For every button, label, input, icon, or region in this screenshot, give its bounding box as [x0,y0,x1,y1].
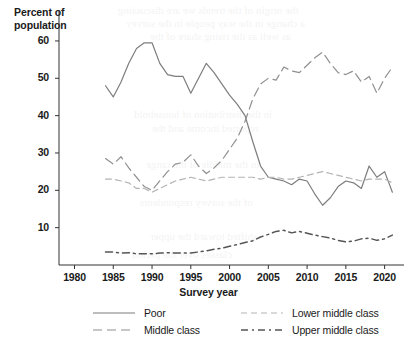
y-tick-60: 60 [23,34,49,46]
legend-swatch-poor [92,308,136,318]
legend-label-poor: Poor [144,307,166,319]
x-tick-1980: 1980 [53,271,97,283]
x-tick-2010: 2010 [285,271,329,283]
y-tick-20: 20 [23,183,49,195]
series-line-upper-middle-class [106,230,393,254]
legend-item-lower-middle-class: Lower middle class [240,307,379,319]
x-tick-1990: 1990 [130,271,174,283]
legend-item-upper-middle-class: Upper middle class [240,324,379,336]
x-axis-title: Survey year [0,286,417,298]
legend-label-upper-middle-class: Upper middle class [292,324,379,336]
chart-legend: Poor Lower middle class Middle class [92,304,412,338]
x-tick-2015: 2015 [324,271,368,283]
legend-label-lower-middle-class: Lower middle class [292,307,379,319]
chart-container: the origin of the trends we are discussi… [0,0,417,345]
x-tick-1985: 1985 [91,271,135,283]
x-tick-1995: 1995 [169,271,213,283]
series-line-poor [106,43,393,205]
legend-item-middle-class: Middle class [92,324,240,336]
legend-swatch-upper-middle-class [240,325,284,335]
legend-item-poor: Poor [92,307,240,319]
y-tick-40: 40 [23,109,49,121]
x-tick-2005: 2005 [246,271,290,283]
legend-swatch-lower-middle-class [240,308,284,318]
series-line-middle-class [106,52,393,190]
y-tick-10: 10 [23,221,49,233]
x-tick-2020: 2020 [363,271,407,283]
y-tick-30: 30 [23,146,49,158]
legend-label-middle-class: Middle class [144,324,200,336]
x-tick-2000: 2000 [208,271,252,283]
legend-swatch-middle-class [92,325,136,335]
y-tick-50: 50 [23,71,49,83]
